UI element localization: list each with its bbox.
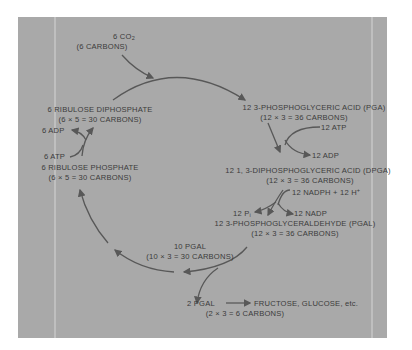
pgal-to-2pgal-arrow xyxy=(197,268,218,303)
adp12-branch xyxy=(285,140,310,155)
pgal-label: 12 3-PHOSPHOGLYCERALDEHYDE (PGAL) xyxy=(200,219,390,228)
rudp-to-pga-arrow xyxy=(113,78,245,101)
rp-label: 6 RIBULOSE PHOSPHATE xyxy=(30,163,150,172)
pga-label: 12 3-PHOSPHOGLYCERIC ACID (PGA) xyxy=(234,103,394,112)
pgal10-carbons: (10 × 3 = 30 CARBONS) xyxy=(130,252,250,261)
pi-subscript: i xyxy=(249,212,250,218)
pga-to-dpga-arrow xyxy=(268,123,280,152)
nadph-label: 12 NADPH + 12 H+ xyxy=(292,186,360,197)
adp6-branch xyxy=(72,130,86,140)
atp6-label: 6 ATP xyxy=(44,152,65,161)
co2-arrow xyxy=(122,55,153,78)
dpga-label: 12 1, 3-DIPHOSPHOGLYCERIC ACID (DPGA) xyxy=(213,166,403,175)
products-label: FRUCTOSE, GLUCOSE, etc. xyxy=(254,299,358,308)
adp12-label: 12 ADP xyxy=(312,151,339,160)
pgal2-carbons: (2 × 3 = 6 CARBONS) xyxy=(190,309,300,318)
rp-to-rudp-arrow xyxy=(82,128,93,156)
nadp-label: 12 NADP xyxy=(294,209,327,218)
rdp-carbons: (6 × 5 = 30 CARBONS) xyxy=(40,115,160,124)
nadph-sup: + xyxy=(357,187,360,193)
pgal10-label: 10 PGAL xyxy=(150,242,230,251)
co2-text: 6 CO xyxy=(113,32,132,41)
nadp-branch xyxy=(278,203,293,214)
rp-carbons: (6 × 5 = 30 CARBONS) xyxy=(35,173,145,182)
nadph-branch xyxy=(278,190,290,205)
atp12-label: 12 ATP xyxy=(321,123,347,132)
return-arc-arrow xyxy=(80,190,108,243)
atp6-branch xyxy=(70,145,83,157)
pi-text: 12 P xyxy=(233,209,249,218)
pga-carbons: (12 × 3 = 36 CARBONS) xyxy=(234,113,374,122)
co2-subscript: 2 xyxy=(132,35,135,41)
pgal-carbons: (12 × 3 = 36 CARBONS) xyxy=(225,229,365,238)
pgal2-label: 2 PGAL xyxy=(176,299,226,308)
dpga-carbons: (12 × 3 = 36 CARBONS) xyxy=(240,176,380,185)
co2-carbons: (6 CARBONS) xyxy=(72,42,132,51)
atp12-branch xyxy=(285,127,320,145)
nadph-text: 12 NADPH + 12 H xyxy=(292,188,357,197)
adp6-label: 6 ADP xyxy=(42,126,65,135)
rdp-label: 6 RIBULOSE DIPHOSPHATE xyxy=(30,105,170,114)
